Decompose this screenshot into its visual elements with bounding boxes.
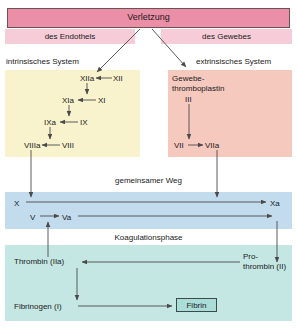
tissue-thromboplastin-line1: Gewebe- — [172, 74, 224, 84]
factor-va-node: Va — [62, 213, 71, 222]
factor-iii-node: III — [185, 95, 192, 104]
injury-label: Verletzung — [0, 12, 297, 22]
tissue-thromboplastin-node: Gewebe- thromboplastin — [172, 74, 224, 94]
fibrin-label: Fibrin — [176, 301, 217, 310]
coagulation-phase-label: Koagulationsphase — [0, 233, 297, 242]
common-pathway-label: gemeinsamer Weg — [0, 176, 297, 185]
factor-ix-node: IX — [80, 118, 88, 127]
factor-viiia-node: VIIIa — [24, 141, 40, 150]
factor-xiia-node: XIIa — [80, 74, 94, 83]
prothrombin-node: Pro- thrombin (II) — [243, 252, 286, 272]
factor-viii-node: VIII — [62, 141, 74, 150]
endothelium-label: des Endothels — [5, 32, 135, 41]
prothrombin-line1: Pro- — [243, 252, 286, 262]
factor-vii-node: VII — [174, 141, 184, 150]
factor-xi-node: XI — [98, 96, 106, 105]
tissue-thromboplastin-line2: thromboplastin — [172, 84, 224, 94]
tissue-label: des Gewebes — [161, 32, 292, 41]
coagulation-cascade-diagram: Verletzung des Endothels des Gewebes int… — [0, 0, 297, 328]
extrinsic-system-label: extrinsisches System — [196, 57, 271, 66]
factor-ixa-node: IXa — [44, 118, 56, 127]
intrinsic-system-label: intrinsisches System — [6, 57, 79, 66]
factor-xii-node: XII — [113, 74, 123, 83]
factor-xia-node: XIa — [62, 96, 74, 105]
factor-xa-node: Xa — [270, 199, 280, 208]
thrombin-node: Thrombin (IIa) — [14, 257, 64, 266]
factor-v-node: V — [30, 213, 35, 222]
factor-x-node: X — [14, 199, 19, 208]
arrow-layer — [0, 0, 297, 328]
fibrinogen-node: Fibrinogen (I) — [14, 302, 62, 311]
factor-viia-node: VIIa — [205, 141, 219, 150]
prothrombin-line2: thrombin (II) — [243, 262, 286, 272]
